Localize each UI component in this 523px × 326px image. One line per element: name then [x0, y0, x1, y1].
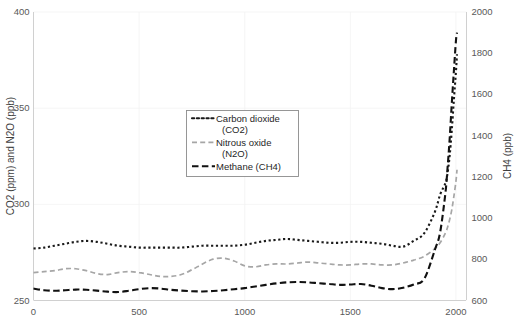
x-tick-label: 0 [31, 306, 36, 317]
legend-label: Nitrous oxide [216, 137, 271, 148]
x-tick-label: 500 [131, 306, 147, 317]
y-tick-label: 250 [14, 295, 30, 306]
y-tick-label: 300 [14, 198, 30, 209]
y2-tick-label: 1200 [472, 171, 493, 182]
legend-label: Methane (CH4) [216, 161, 281, 172]
y2-tick-label: 1600 [472, 88, 493, 99]
y2-tick-label: 1400 [472, 130, 493, 141]
y2-axis-title: CH4 (ppb) [502, 133, 513, 179]
chart-legend: Carbon dioxide(CO2)Nitrous oxide(N2O)Met… [187, 111, 299, 177]
y2-tick-label: 2000 [472, 6, 493, 17]
legend-label-continued: (CO2) [222, 124, 248, 135]
y-tick-label: 350 [14, 102, 30, 113]
chart-container: 250300350400 600800100012001400160018002… [0, 0, 523, 326]
x-tick-label: 2000 [445, 306, 466, 317]
y2-tick-label: 800 [472, 253, 488, 264]
y-axis-title: CO2 (ppm) and N2O (ppb) [5, 97, 16, 215]
x-tick-label: 1000 [234, 306, 255, 317]
y2-tick-label: 600 [472, 295, 488, 306]
y-tick-label: 400 [14, 6, 30, 17]
y2-tick-label: 1800 [472, 47, 493, 58]
legend-label: Carbon dioxide [216, 113, 280, 124]
climate-gas-line-chart: 250300350400 600800100012001400160018002… [0, 0, 523, 326]
y2-tick-label: 1000 [472, 212, 493, 223]
legend-label-continued: (N2O) [222, 148, 248, 159]
x-tick-label: 1500 [340, 306, 361, 317]
